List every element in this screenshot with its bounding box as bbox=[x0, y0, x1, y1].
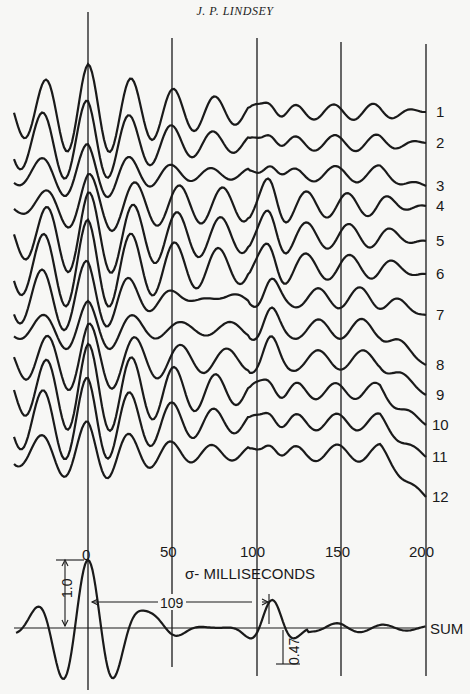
trace-2 bbox=[14, 101, 426, 179]
tick-100: 100 bbox=[240, 543, 265, 560]
tick-150: 150 bbox=[325, 543, 350, 560]
tick-200: 200 bbox=[409, 543, 434, 560]
time-gridlines bbox=[88, 12, 426, 690]
trace-label-2: 2 bbox=[436, 134, 444, 151]
trace-label-9: 9 bbox=[436, 386, 444, 403]
trace-labels: 1 2 3 4 5 6 7 8 9 10 11 12 bbox=[432, 103, 449, 505]
peak-amplitude-label: 1.0 bbox=[59, 578, 75, 598]
trace-label-8: 8 bbox=[436, 356, 444, 373]
trace-label-11: 11 bbox=[432, 448, 448, 465]
x-axis-ticks: 0 50 100 150 200 bbox=[82, 543, 434, 563]
trace-label-1: 1 bbox=[436, 103, 444, 120]
tick-50: 50 bbox=[160, 543, 177, 560]
secondary-amplitude-label: 0.47 bbox=[286, 638, 302, 665]
trace-label-3: 3 bbox=[436, 177, 444, 194]
trace-4 bbox=[14, 174, 426, 231]
sum-label: SUM bbox=[430, 620, 463, 637]
trace-12 bbox=[14, 422, 426, 497]
lag-label: 109 bbox=[160, 595, 184, 611]
trace-label-12: 12 bbox=[432, 488, 449, 505]
trace-group bbox=[14, 64, 426, 497]
trace-label-10: 10 bbox=[432, 416, 449, 433]
trace-label-7: 7 bbox=[436, 306, 444, 323]
trace-label-4: 4 bbox=[436, 197, 444, 214]
trace-8 bbox=[14, 301, 426, 365]
x-axis-label: σ- MILLISECONDS bbox=[185, 565, 315, 582]
seismic-trace-figure: 1 2 3 4 5 6 7 8 9 10 11 12 0 50 100 150 … bbox=[0, 0, 470, 694]
trace-5 bbox=[14, 193, 426, 273]
trace-label-6: 6 bbox=[436, 265, 444, 282]
trace-label-5: 5 bbox=[436, 232, 444, 249]
